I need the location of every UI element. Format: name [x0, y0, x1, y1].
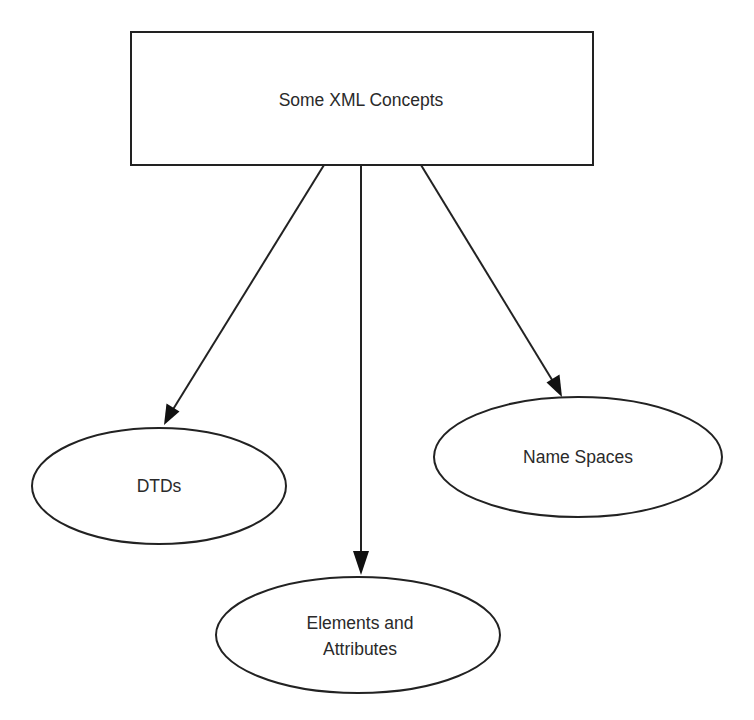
edge-line: [172, 165, 324, 411]
dtds-label: DTDs: [137, 476, 182, 496]
concept-diagram: Some XML Concepts DTDs Name Spaces Eleme…: [0, 0, 754, 720]
root-label: Some XML Concepts: [279, 90, 444, 110]
node-elements-attributes: Elements and Attributes: [216, 577, 500, 693]
node-dtds: DTDs: [32, 428, 286, 544]
edge-root-to-elements: [353, 165, 369, 575]
node-name-spaces: Name Spaces: [434, 397, 722, 517]
arrow-head-icon: [164, 404, 180, 426]
elements-attributes-label-line-1: Elements and: [306, 613, 413, 633]
edge-root-to-dtds: [164, 165, 324, 425]
edge-root-to-name-spaces: [421, 165, 562, 397]
root-node: Some XML Concepts: [131, 32, 593, 165]
arrow-head-icon: [547, 375, 563, 398]
arrow-head-icon: [353, 551, 369, 575]
edge-line: [421, 165, 554, 383]
elements-attributes-ellipse: [216, 577, 500, 693]
name-spaces-label: Name Spaces: [523, 447, 633, 467]
elements-attributes-label-line-2: Attributes: [323, 639, 397, 659]
